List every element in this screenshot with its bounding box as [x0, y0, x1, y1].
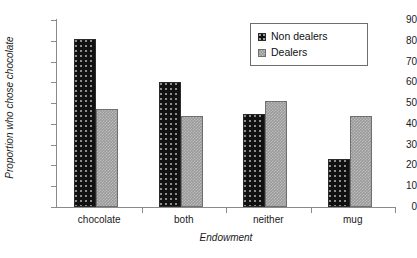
chart-legend: Non dealersDealers: [250, 23, 368, 66]
x-axis-label-both: both: [142, 214, 227, 226]
x-axis-separator-tick: [395, 207, 396, 213]
x-axis-label-mug: mug: [311, 214, 396, 226]
legend-swatch-icon: [258, 49, 266, 57]
legend-item-non-dealers: Non dealers: [258, 31, 360, 42]
bar-mug-non-dealers: [328, 159, 350, 207]
x-axis-label-neither: neither: [226, 214, 311, 226]
bar-mug-dealers: [350, 116, 372, 207]
bar-both-non-dealers: [159, 82, 181, 207]
x-axis-separator-tick: [311, 207, 312, 213]
x-axis-label-chocolate: chocolate: [57, 214, 142, 226]
legend-label: Non dealers: [271, 31, 328, 42]
bar-chart: Proportion who chose chocolate 010203040…: [0, 0, 417, 258]
bar-neither-non-dealers: [243, 114, 265, 208]
y-axis-title: Proportion who chose chocolate: [0, 0, 18, 215]
x-axis-separator-tick: [142, 207, 143, 213]
legend-item-dealers: Dealers: [258, 47, 360, 58]
legend-label: Dealers: [271, 47, 307, 58]
bar-both-dealers: [181, 116, 203, 207]
legend-swatch-icon: [258, 33, 266, 41]
x-axis-separator-tick: [226, 207, 227, 213]
y-axis-title-text: Proportion who chose chocolate: [4, 36, 15, 178]
bar-chocolate-non-dealers: [74, 39, 96, 207]
y-axis-tick: [51, 207, 57, 208]
x-axis-title: Endowment: [57, 232, 395, 243]
bar-neither-dealers: [265, 101, 287, 207]
bar-chocolate-dealers: [96, 109, 118, 207]
